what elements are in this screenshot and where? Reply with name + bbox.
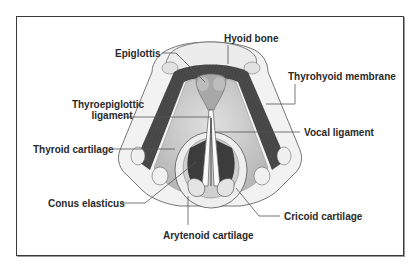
label-thyroepiglottic-line2: ligament — [68, 110, 148, 121]
label-arytenoid-cartilage: Arytenoid cartilage — [163, 230, 254, 241]
label-vocal-ligament: Vocal ligament — [304, 127, 374, 138]
label-thyroid-cartilage: Thyroid cartilage — [33, 144, 114, 155]
label-hyoid-bone: Hyoid bone — [224, 33, 278, 44]
label-thyroepiglottic-ligament: Thyroepiglottic ligament — [68, 99, 148, 121]
label-thyrohyoid-membrane: Thyrohyoid membrane — [288, 71, 396, 82]
label-thyroepiglottic-line1: Thyroepiglottic — [68, 99, 148, 110]
label-conus-elasticus: Conus elasticus — [48, 198, 125, 209]
label-cricoid-cartilage: Cricoid cartilage — [284, 211, 362, 222]
label-epiglottis: Epiglottis — [115, 48, 161, 59]
